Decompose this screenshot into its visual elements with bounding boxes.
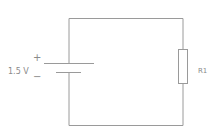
- battery-symbol: [44, 64, 94, 73]
- wires: [69, 19, 183, 126]
- positive-sign: +: [33, 52, 41, 63]
- resistor-label: R1: [198, 67, 207, 75]
- voltage-label: 1.5 V: [8, 67, 29, 76]
- wire-bottom: [69, 72, 183, 126]
- negative-sign: −: [33, 71, 41, 82]
- resistor-symbol: [179, 50, 188, 84]
- circuit-diagram: + 1.5 V − R1: [0, 0, 213, 129]
- wire-top: [69, 19, 183, 64]
